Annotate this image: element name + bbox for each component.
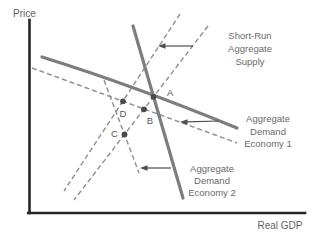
point-b-dot [141,106,147,112]
sras-label-line1: Short-Run [228,30,271,41]
price-axis-label: Price [13,8,36,19]
point-b-label: B [147,115,153,126]
point-a-dot [151,94,157,100]
sras-shift-arrow [158,43,193,49]
sras-label: Short-Run Aggregate Supply [228,30,272,67]
ad-economy1-curve [42,57,237,128]
ad1-label-line1: Aggregate [246,113,290,124]
point-c-label: C [111,128,118,139]
ad-economy2-label: Aggregate Demand Economy 2 [188,163,236,198]
ad-economy1-shifted-curve [32,68,237,143]
ad2-label-line1: Aggregate [190,163,234,174]
sras-label-line3: Supply [235,56,264,67]
ad-economy1-label: Aggregate Demand Economy 1 [244,113,292,149]
ad-economy2-shift-arrow [140,165,171,171]
point-d-dot [120,98,126,104]
ad-economy1-shift-arrow [180,119,219,125]
ad-economy2-shifted-curve [104,80,139,173]
ad-economy2-curve [133,26,183,198]
ad1-label-line3: Economy 1 [244,138,292,149]
point-d-label: D [120,108,127,119]
real-gdp-axis-label: Real GDP [257,220,302,231]
ad2-label-line2: Demand [194,175,230,186]
ad2-label-line3: Economy 2 [188,187,236,198]
ad1-label-line2: Demand [250,126,286,137]
sras-label-line2: Aggregate [228,43,272,54]
point-a-label: A [167,87,174,98]
as-ad-diagram-figure: A B C D Price Real GDP Short-Run Aggrega… [0,0,318,239]
diagram-canvas: A B C D Price Real GDP Short-Run Aggrega… [0,0,318,239]
point-c-dot [122,132,128,138]
